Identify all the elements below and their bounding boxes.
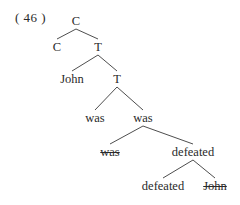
tree-node-t: T <box>113 72 121 86</box>
tree-branch <box>95 87 117 110</box>
tree-node-was: was <box>85 111 104 125</box>
tree-branch <box>143 126 193 144</box>
tree-node-john: John <box>60 72 84 86</box>
tree-branch <box>72 55 98 71</box>
tree-branch <box>76 29 98 39</box>
tree-node-john-deleted: John <box>203 179 227 193</box>
tree-branch <box>98 55 117 71</box>
tree-branch <box>163 160 193 178</box>
tree-node-was-deleted: was <box>100 145 119 159</box>
tree-branch <box>57 29 76 39</box>
tree-node-was: was <box>133 111 152 125</box>
tree-node-c: C <box>72 14 80 28</box>
tree-node-defeated: defeated <box>172 145 214 159</box>
tree-node-c: C <box>53 40 61 54</box>
tree-branch <box>117 87 143 110</box>
tree-node-t: T <box>94 40 102 54</box>
tree-branch <box>193 160 215 178</box>
tree-node-defeated: defeated <box>142 179 184 193</box>
tree-edges <box>0 0 240 205</box>
tree-branch <box>110 126 143 144</box>
